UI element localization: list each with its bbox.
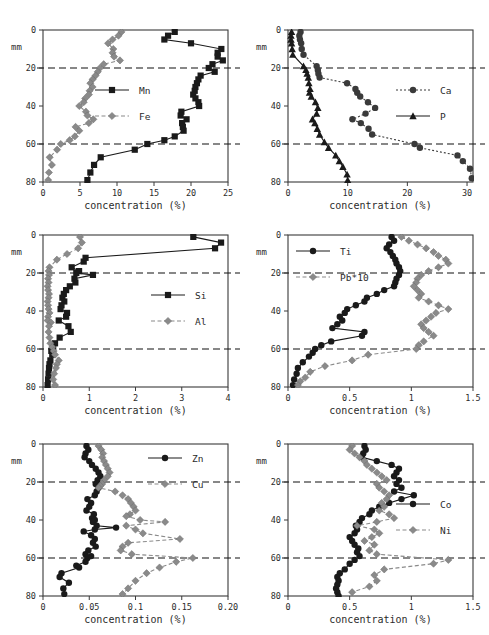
series-line-Pb*10: [298, 237, 448, 385]
data-marker: [218, 240, 224, 246]
y-tick-label: 40: [26, 306, 36, 316]
y-tick-label: 60: [271, 139, 281, 149]
data-marker: [206, 65, 212, 71]
y-tick-label: 0: [276, 230, 281, 240]
panel-si-al: 020406080mm01234concentration (%)SiAl: [0, 211, 244, 422]
data-marker: [318, 342, 324, 348]
legend-label-Co: Co: [440, 499, 452, 510]
data-marker: [109, 87, 115, 93]
data-marker: [176, 535, 183, 542]
data-marker: [369, 131, 375, 137]
data-marker: [125, 539, 132, 546]
data-marker: [423, 245, 430, 252]
data-marker: [373, 518, 380, 525]
y-tick-label: 20: [26, 268, 36, 278]
data-marker: [306, 353, 312, 359]
data-marker: [391, 283, 397, 289]
data-marker: [81, 528, 87, 534]
y-tick-label: 20: [26, 477, 36, 487]
data-marker: [65, 323, 71, 329]
y-tick-label: 0: [31, 439, 36, 449]
y-tick-label: 80: [271, 591, 281, 601]
data-marker: [69, 264, 75, 270]
data-marker: [161, 36, 167, 42]
data-marker: [84, 177, 90, 183]
data-marker: [366, 583, 373, 590]
x-axis-title: concentration (%): [84, 200, 186, 211]
series-line-Ca: [299, 32, 472, 178]
x-tick-label: 1.5: [465, 602, 480, 612]
data-marker: [188, 40, 194, 46]
data-marker: [132, 526, 139, 533]
x-tick-label: 0: [40, 188, 45, 198]
data-marker: [343, 171, 350, 178]
x-axis-title: concentration (%): [84, 405, 186, 416]
data-marker: [57, 306, 63, 312]
y-tick-label: 60: [26, 139, 36, 149]
data-marker: [181, 128, 187, 134]
data-marker: [300, 52, 306, 58]
data-marker: [178, 112, 184, 118]
data-marker: [425, 298, 432, 305]
data-marker: [430, 560, 437, 567]
data-marker: [56, 574, 62, 580]
data-marker: [411, 492, 417, 498]
data-marker: [381, 287, 387, 293]
x-tick-label: 4: [225, 393, 230, 403]
data-marker: [57, 335, 63, 341]
data-marker: [316, 74, 322, 80]
data-marker: [98, 154, 104, 160]
data-marker: [83, 507, 89, 513]
data-marker: [372, 105, 378, 111]
y-tick-label: 60: [26, 553, 36, 563]
data-marker: [172, 133, 178, 139]
y-tick-label: 20: [271, 477, 281, 487]
depth-axis-label: mm: [256, 247, 267, 257]
x-tick-label: 0.1: [128, 602, 143, 612]
data-marker: [212, 245, 218, 251]
data-marker: [161, 137, 167, 143]
data-marker: [300, 359, 306, 365]
y-tick-label: 0: [276, 439, 281, 449]
legend: TiPb*10: [296, 246, 369, 283]
data-marker: [92, 526, 98, 532]
depth-axis-label: mm: [256, 42, 267, 52]
data-marker: [349, 357, 356, 364]
data-marker: [435, 264, 442, 271]
x-axis-title: concentration (%): [329, 200, 431, 211]
data-marker: [128, 551, 135, 558]
legend-label-Ca: Ca: [440, 85, 451, 96]
data-marker: [410, 501, 416, 507]
series-group: [333, 442, 452, 599]
data-marker: [368, 534, 375, 541]
data-marker: [469, 175, 475, 181]
x-tick-label: 3: [179, 393, 184, 403]
plot-frame: [288, 444, 473, 596]
data-marker: [81, 259, 87, 265]
data-marker: [91, 162, 97, 168]
depth-axis-label: mm: [11, 247, 22, 257]
plot-frame: [43, 235, 228, 387]
legend-label-Fe: Fe: [139, 111, 151, 122]
x-tick-label: 1.5: [465, 393, 480, 403]
data-marker: [45, 328, 52, 335]
legend: MnFe: [95, 85, 151, 122]
series-group: [45, 28, 226, 183]
data-marker: [365, 126, 371, 132]
x-tick-label: 2: [133, 393, 138, 403]
data-marker: [454, 152, 460, 158]
legend-label-Si: Si: [195, 290, 207, 301]
panel-zn-cu: 020406080mm00.050.10.150.20concentration…: [0, 420, 244, 631]
panel-mn-fe: 020406080mm0510152025concentration (%)Mn…: [0, 6, 244, 217]
data-marker: [321, 138, 328, 145]
x-tick-label: 10: [112, 188, 122, 198]
data-marker: [123, 522, 130, 529]
data-marker: [156, 564, 163, 571]
data-marker: [162, 455, 168, 461]
data-marker: [335, 593, 341, 599]
x-axis-title: concentration (%): [329, 405, 431, 416]
data-marker: [344, 80, 350, 86]
data-marker: [398, 496, 404, 502]
data-marker: [358, 120, 364, 126]
data-marker: [361, 298, 367, 304]
